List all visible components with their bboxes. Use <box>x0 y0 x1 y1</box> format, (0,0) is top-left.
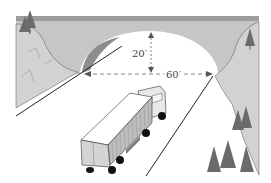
wheel-icon <box>116 156 124 164</box>
wheel-icon <box>158 112 166 120</box>
wheel-icon <box>142 129 150 137</box>
wheel-icon <box>86 167 94 173</box>
arch-bridge-diagram: 20′ 60′ <box>0 0 271 183</box>
bridge-deck <box>16 16 259 21</box>
width-label: 60′ <box>166 69 182 80</box>
truck <box>81 86 166 174</box>
wheel-icon <box>108 166 116 174</box>
height-label: 20′ <box>132 48 148 59</box>
